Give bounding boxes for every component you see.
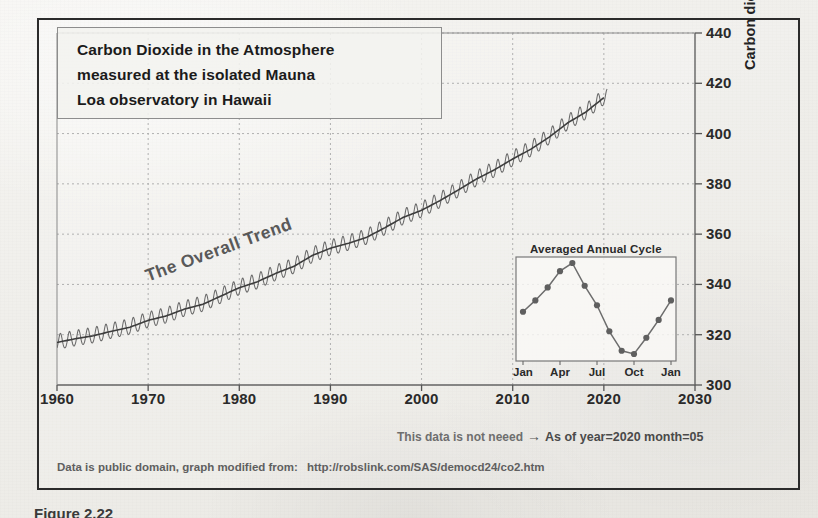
chart-title-line-3: Loa observatory in Hawaii: [77, 87, 441, 112]
x-tick-label-1960: 1960: [27, 390, 87, 407]
inset-marker-May: [569, 260, 575, 266]
inset-marker-Dec: [656, 317, 662, 323]
y-tick-label-300: 300: [706, 376, 732, 393]
data-note-annotation: This data is not neeed→As of year=2020 m…: [397, 428, 703, 444]
inset-marker-Jan: [520, 309, 526, 315]
chart-title-line-2: measured at the isolated Mauna: [77, 62, 441, 87]
inset-x-tick-4: Jan: [654, 366, 688, 378]
inset-marker-Mar: [545, 284, 551, 290]
y-axis-ticks: [695, 33, 702, 385]
y-tick-label-440: 440: [706, 24, 732, 41]
y-tick-label-380: 380: [706, 175, 732, 192]
inset-marker-Aug: [606, 328, 612, 334]
source-url[interactable]: http://robslink.com/SAS/democd24/co2.htm: [298, 461, 545, 473]
inset-x-tick-3: Oct: [617, 366, 651, 378]
source-footer: Data is public domain, graph modified fr…: [57, 461, 545, 473]
inset-panel: [516, 257, 676, 361]
x-tick-label-2000: 2000: [392, 390, 452, 407]
footer-text: Data is public domain, graph modified fr…: [57, 461, 298, 473]
inset-x-tick-2: Jul: [580, 366, 614, 378]
inset-marker-Apr: [557, 268, 563, 274]
y-tick-label-360: 360: [706, 225, 732, 242]
x-tick-label-1990: 1990: [300, 390, 360, 407]
note-left-text: This data is not neeed: [397, 430, 523, 444]
inset-marker-Jun: [582, 283, 588, 289]
y-tick-label-420: 420: [706, 74, 732, 91]
chart-title-line-1: Carbon Dioxide in the Atmosphere: [77, 37, 441, 62]
inset-x-tick-1: Apr: [543, 366, 577, 378]
x-tick-label-2020: 2020: [574, 390, 634, 407]
note-right-text: As of year=2020 month=05: [545, 430, 703, 444]
y-tick-label-340: 340: [706, 275, 732, 292]
inset-marker-Oct: [631, 351, 637, 357]
inset-marker-Sep: [619, 348, 625, 354]
x-tick-label-2010: 2010: [483, 390, 543, 407]
inset-marker-Jan: [668, 297, 674, 303]
y-tick-label-320: 320: [706, 326, 732, 343]
figure-caption: Figure 2.22: [34, 505, 113, 518]
y-axis-title: Carbon dioxide concentration (ppmv): [742, 0, 758, 70]
inset-x-tick-0: Jan: [506, 366, 540, 378]
inset-marker-Nov: [643, 335, 649, 341]
inset-marker-Jul: [594, 302, 600, 308]
chart-title-box: Carbon Dioxide in the Atmosphere measure…: [57, 27, 442, 119]
inset-marker-Feb: [532, 297, 538, 303]
arrow-right-icon: →: [523, 428, 545, 444]
y-tick-label-400: 400: [706, 125, 732, 142]
x-tick-label-1980: 1980: [209, 390, 269, 407]
inset-chart-title: Averaged Annual Cycle: [530, 243, 662, 255]
x-tick-label-1970: 1970: [118, 390, 178, 407]
